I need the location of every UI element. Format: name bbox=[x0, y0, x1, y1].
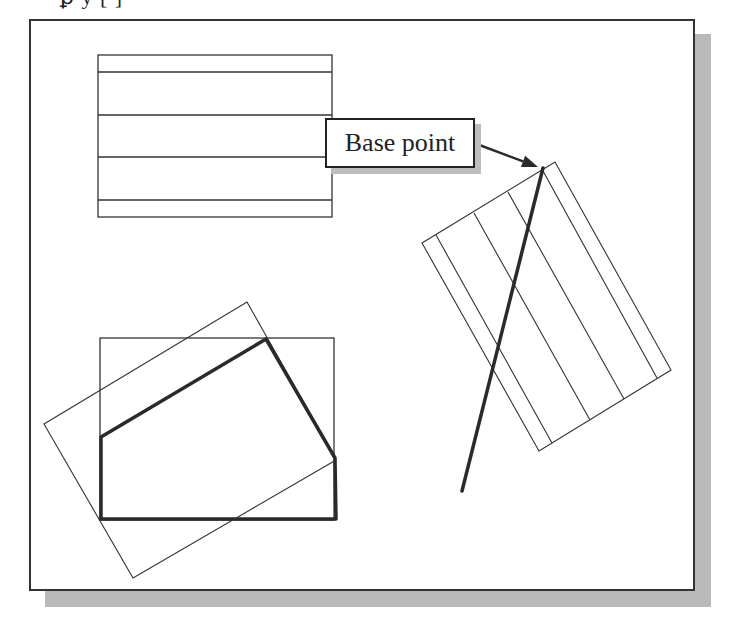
rotated-rectangle-line bbox=[508, 192, 624, 399]
base-point-label: Base point bbox=[345, 128, 456, 158]
arrow-head-icon bbox=[521, 156, 538, 167]
thick-polygon-outline bbox=[101, 339, 336, 519]
base-point-callout: Base point bbox=[325, 118, 475, 168]
thick-line bbox=[462, 168, 543, 491]
bottom-rectangle bbox=[100, 338, 334, 520]
thick-rotation-line bbox=[462, 168, 543, 491]
bottom-rectangle-outline bbox=[100, 338, 334, 520]
thick-polygon bbox=[101, 339, 336, 519]
callout-arrow-icon bbox=[474, 143, 538, 167]
bottom-rotated-rectangle-outline bbox=[44, 302, 336, 578]
cad-drawing-canvas bbox=[0, 0, 730, 619]
rotated-rectangle-outline bbox=[422, 162, 671, 451]
arrow-shaft bbox=[474, 143, 523, 161]
top-rectangle-with-lines bbox=[98, 55, 332, 217]
top-rectangle-outline bbox=[98, 55, 332, 217]
rotated-rectangle-line bbox=[543, 171, 657, 378]
rotated-rectangle-line bbox=[436, 235, 552, 443]
rotated-hatched-rectangle bbox=[422, 162, 671, 451]
bottom-rotated-rectangle bbox=[44, 302, 336, 578]
rotated-rectangle-line bbox=[474, 213, 590, 420]
